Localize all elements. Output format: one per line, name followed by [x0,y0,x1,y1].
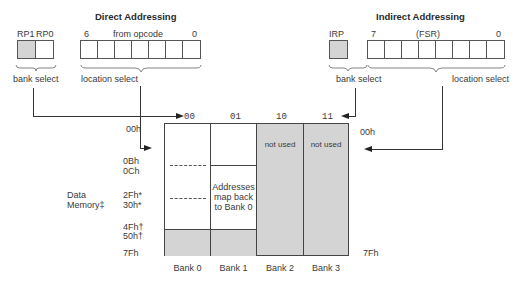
bank-code-00: 00 [184,112,195,122]
direct-location-brace [80,64,202,74]
direct-bank-connector [33,88,34,117]
addr-00h: 00h [126,124,141,134]
direct-bank-connector [33,116,177,117]
direct-bit-high: 6 [84,29,89,39]
bank-code-01: 01 [230,112,241,122]
rp0-bit [35,40,54,59]
bank-1-note: map back [210,192,257,202]
arrow-right-icon [144,145,152,151]
bank-2-label: Bank 2 [256,263,304,273]
bank-3-not-used: not used [303,140,349,150]
direct-addressing-title: Direct Addressing [95,12,176,22]
direct-bit [80,40,98,59]
indirect-bit [486,40,505,59]
indirect-bit-low: 0 [496,29,501,39]
indirect-bit [435,40,453,59]
irp-bit [329,40,348,59]
bank-0-shaded-region [165,229,210,256]
bank-0-2fh-marker [170,198,206,199]
bank-1-note: Addresses [210,182,257,192]
indirect-location-brace [367,64,507,74]
indirect-bit [469,40,487,59]
right-addr-00h: 00h [360,127,375,137]
direct-bank-brace [15,64,57,72]
bank-1-shaded-region [211,229,256,256]
bank-code-10: 10 [276,112,287,122]
direct-location-connector [140,86,141,149]
arrow-right-icon [176,113,184,119]
data-memory-label: Data [67,190,86,200]
bank-code-11: 11 [322,112,333,122]
bank-0-label: Bank 0 [164,263,211,273]
rp1-label: RP1 [17,29,35,39]
indirect-bank-connector [348,116,356,117]
bank-2-not-used: not used [256,140,304,150]
indirect-bit [452,40,470,59]
bank-0-0bh-marker [170,165,206,166]
indirect-bank-select-label: bank select [336,74,382,84]
indirect-bit [401,40,419,59]
direct-bit [131,40,149,59]
bank-1-label: Bank 1 [210,263,257,273]
arrow-left-icon [341,113,349,119]
addr-7fh: 7Fh [123,248,139,258]
direct-bit [165,40,183,59]
addr-2fh: 2Fh* [123,190,142,200]
indirect-bit [367,40,385,59]
right-addr-7fh: 7Fh [363,248,379,258]
indirect-location-connector [442,86,443,150]
indirect-source-label: (FSR) [416,29,440,39]
direct-bit-low: 0 [192,29,197,39]
addr-0bh: 0Bh [123,156,139,166]
indirect-location-select-label: location select [452,74,509,84]
direct-bit [114,40,132,59]
addr-0ch: 0Ch [123,166,140,176]
bank-1-note: to Bank 0 [210,202,257,212]
addr-30h: 30h* [123,200,142,210]
direct-bit [97,40,115,59]
bank-3-label: Bank 3 [303,263,349,273]
indirect-bit [418,40,436,59]
indirect-addressing-title: Indirect Addressing [376,12,465,22]
direct-source-label: from opcode [113,29,163,39]
addr-50h: 50h† [123,231,143,241]
direct-bit [148,40,166,59]
data-memory-label: Memory‡ [67,200,105,210]
direct-bank-select-label: bank select [13,74,59,84]
direct-bit [182,40,201,59]
indirect-bank-connector [355,88,356,117]
indirect-location-connector [372,149,443,150]
indirect-bit [384,40,402,59]
bank-0 [164,123,211,256]
rp0-label: RP0 [36,29,54,39]
indirect-bank-brace [328,64,368,72]
arrow-left-icon [364,146,372,152]
bank-1-divider [211,165,256,166]
direct-location-select-label: location select [81,74,138,84]
irp-label: IRP [329,29,344,39]
indirect-bit-high: 7 [371,29,376,39]
rp1-bit [17,40,36,59]
